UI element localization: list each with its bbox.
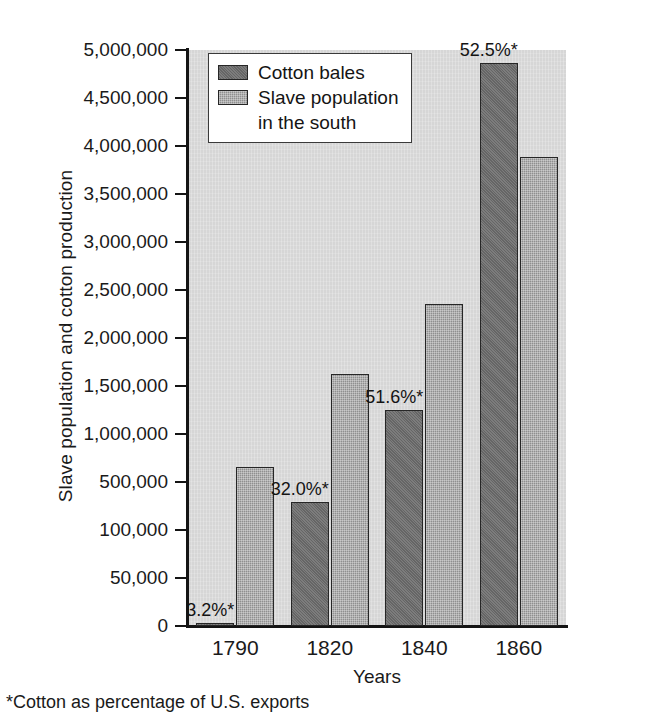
- bar-annotation-1840: 51.6%*: [337, 388, 423, 406]
- y-axis-tick: [175, 241, 187, 243]
- legend-sublabel-slave-population: in the south: [258, 110, 399, 135]
- y-axis-tick-label: 500,000: [99, 472, 168, 491]
- x-axis-tick-label-1820: 1820: [285, 636, 375, 660]
- x-axis-tick-label-1840: 1840: [379, 636, 469, 660]
- bar-slave-population-1860: [520, 157, 558, 626]
- y-axis-tick: [175, 337, 187, 339]
- legend-label-slave-population: Slave population: [258, 88, 399, 107]
- y-axis-tick-label: 1,000,000: [83, 424, 168, 443]
- legend-swatch-cotton-bales: [218, 65, 248, 80]
- y-axis-tick: [175, 49, 187, 51]
- y-axis-title: Slave population and cotton production: [55, 56, 77, 616]
- legend-swatch-slave-population: [218, 90, 248, 105]
- legend-label-cotton-bales: Cotton bales: [258, 63, 365, 82]
- y-axis-tick-label: 3,500,000: [83, 184, 168, 203]
- bar-cotton-bales-1860: [480, 63, 518, 626]
- y-axis-tick: [175, 193, 187, 195]
- bar-slave-population-1820: [331, 374, 369, 626]
- x-axis-tick-label-1860: 1860: [474, 636, 564, 660]
- y-axis-tick: [175, 97, 187, 99]
- y-axis-tick: [175, 289, 187, 291]
- y-axis-tick: [175, 529, 187, 531]
- legend-item-slave-population: Slave population: [218, 85, 399, 110]
- y-axis-tick-label: 4,000,000: [83, 136, 168, 155]
- bar-slave-population-1840: [425, 304, 463, 626]
- y-axis-tick-label: 5,000,000: [83, 40, 168, 59]
- x-axis-tick-label-1790: 1790: [190, 636, 280, 660]
- x-axis-title: Years: [188, 666, 566, 688]
- chart-footnote: *Cotton as percentage of U.S. exports: [6, 692, 309, 713]
- bar-cotton-bales-1840: [385, 410, 423, 626]
- bar-annotation-1820: 32.0%*: [243, 480, 329, 498]
- y-axis-tick-label: 100,000: [99, 520, 168, 539]
- y-axis-tick: [175, 481, 187, 483]
- y-axis-tick-label: 4,500,000: [83, 88, 168, 107]
- bar-annotation-1790: 3.2%*: [148, 601, 234, 619]
- bar-annotation-1860: 52.5%*: [432, 41, 518, 59]
- bar-chart-figure: Slave population and cotton production 0…: [0, 0, 646, 727]
- y-axis-tick-label: 50,000: [110, 568, 168, 587]
- y-axis-tick-label: 3,000,000: [83, 232, 168, 251]
- bar-cotton-bales-1820: [291, 502, 329, 626]
- y-axis-tick: [175, 145, 187, 147]
- bar-cotton-bales-1790: [196, 623, 234, 626]
- y-axis-tick: [175, 385, 187, 387]
- y-axis-tick-label: 2,500,000: [83, 280, 168, 299]
- legend-item-cotton-bales: Cotton bales: [218, 60, 399, 85]
- y-axis-tick-label: 1,500,000: [83, 376, 168, 395]
- y-axis-tick-label: 2,000,000: [83, 328, 168, 347]
- y-axis-tick: [175, 625, 187, 627]
- y-axis-tick: [175, 577, 187, 579]
- y-axis-tick: [175, 433, 187, 435]
- chart-legend: Cotton bales Slave population in the sou…: [208, 53, 412, 143]
